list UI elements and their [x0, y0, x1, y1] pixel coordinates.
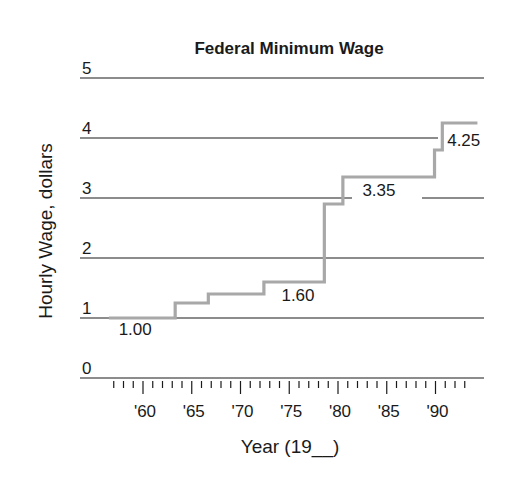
y-tick-label: 1	[82, 299, 91, 318]
value-annotation: 4.25	[447, 131, 480, 150]
x-tick-label: '90	[426, 402, 448, 421]
y-axis-title: Hourly Wage, dollars	[35, 143, 56, 319]
value-annotations: 1.001.603.354.25	[119, 131, 481, 339]
y-tick-label: 2	[82, 239, 91, 258]
x-tick-label: '60	[134, 402, 156, 421]
x-tick-label: '65	[183, 402, 205, 421]
x-tick-label: '85	[378, 402, 400, 421]
value-annotation: 1.60	[281, 286, 314, 305]
y-tick-label: 3	[82, 179, 91, 198]
x-tick-label: '80	[329, 402, 351, 421]
chart-title: Federal Minimum Wage	[194, 39, 383, 58]
value-annotation: 1.00	[119, 320, 152, 339]
y-tick-label: 4	[82, 119, 91, 138]
y-axis-tick-labels: 012345	[82, 59, 91, 378]
minimum-wage-chart: Federal Minimum Wage 012345 '60'65'70'75…	[0, 0, 511, 487]
y-tick-label: 5	[82, 59, 91, 78]
x-tick-label: '75	[280, 402, 302, 421]
value-annotation: 3.35	[362, 181, 395, 200]
x-axis-ticks	[114, 381, 465, 394]
x-tick-label: '70	[231, 402, 253, 421]
y-tick-label: 0	[82, 359, 91, 378]
x-axis-tick-labels: '60'65'70'75'80'85'90	[134, 402, 449, 421]
x-axis-title: Year (19__)	[241, 436, 340, 458]
